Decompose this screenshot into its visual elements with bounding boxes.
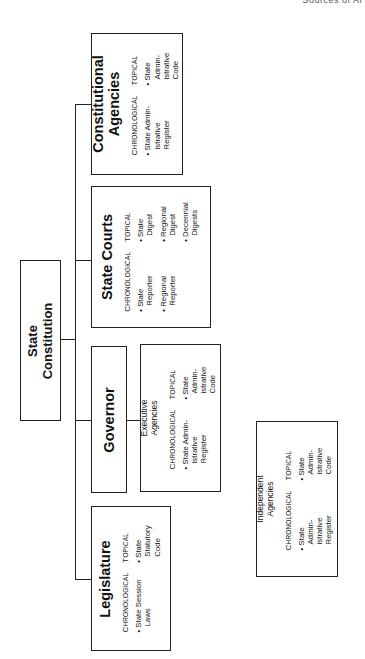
source-item: State Admin- istrative Register <box>180 410 208 470</box>
connector-trunk <box>75 104 76 580</box>
connector-root-to-trunk <box>60 339 75 340</box>
chronological-column: Chronological State Admin- istrative Reg… <box>130 96 175 156</box>
source-item: State Admin- istrative Register <box>297 491 334 551</box>
source-item: State Admin- istrative Code <box>297 448 334 481</box>
source-item: Regional Reporter <box>158 252 176 312</box>
governor-box: Governor <box>91 346 127 493</box>
state-courts-title: State Courts <box>99 214 115 300</box>
chronological-column: Chronological State Admin- istrative Reg… <box>167 410 212 470</box>
source-item: State Admin- istrative Register <box>143 96 171 156</box>
topical-header: Topical <box>130 53 139 86</box>
topical-column: Topical State Digest Regional Digest Dec… <box>123 202 203 242</box>
chronological-column: Chronological State Session Laws <box>121 572 156 632</box>
executive-agencies-box: Executive Agencies Chronological State A… <box>140 344 221 492</box>
state-courts-box: State Courts Chronological State Reporte… <box>91 186 211 328</box>
chronological-column: Chronological State Reporter Regional Re… <box>123 252 181 312</box>
source-item: State Admin- istrative Code <box>180 367 217 400</box>
source-item: State Admin- istrative Code <box>143 53 180 86</box>
chronological-column: Chronological State Admin- istrative Reg… <box>284 491 338 551</box>
connector-constitutional-agencies <box>75 104 91 105</box>
state-constitution-title: State Constitution <box>26 302 55 379</box>
constitutional-agencies-box: Constitutional Agencies Chronological St… <box>91 33 183 175</box>
independent-agencies-box: Independent Agencies Chronological State… <box>256 421 338 577</box>
page-header-fragment: Sources of Ar <box>302 0 363 5</box>
topical-header: Topical <box>121 525 130 562</box>
topical-header: Topical <box>123 202 132 242</box>
chronological-header: Chronological <box>121 572 130 632</box>
chronological-header: Chronological <box>130 96 139 156</box>
topical-header: Topical <box>167 367 176 400</box>
topical-column: Topical State Admin- istrative Code <box>130 53 184 86</box>
constitutional-agencies-title: Constitutional Agencies <box>90 55 122 152</box>
legislature-title: Legislature <box>97 540 113 617</box>
chronological-header: Chronological <box>123 252 132 312</box>
connector-governor <box>75 420 91 421</box>
governor-title: Governor <box>101 387 117 452</box>
topical-column: Topical State Admin- istrative Code <box>167 367 221 400</box>
connector-state-courts <box>75 260 91 261</box>
chronological-header: Chronological <box>167 410 176 470</box>
connector-governor-to-executive <box>126 420 140 421</box>
source-item: Regional Digest <box>158 202 176 242</box>
legislature-box: Legislature Chronological State Session … <box>91 506 171 651</box>
executive-agencies-title: Executive Agencies <box>140 400 160 437</box>
source-item: State Reporter <box>136 252 154 312</box>
topical-column: Topical State Admin- istrative Code <box>284 448 338 481</box>
connector-legislature <box>75 579 91 580</box>
independent-agencies-title: Independent Agencies <box>256 475 276 522</box>
source-item: State Session Laws <box>134 572 152 632</box>
source-item: Decennial Digests <box>181 202 199 242</box>
source-item: State Statutory Code <box>134 525 162 562</box>
source-item: State Digest <box>136 202 154 242</box>
chronological-header: Chronological <box>284 491 293 551</box>
topical-column: Topical State Statutory Code <box>121 525 166 562</box>
state-constitution-box: State Constitution <box>20 260 61 421</box>
topical-header: Topical <box>284 448 293 481</box>
